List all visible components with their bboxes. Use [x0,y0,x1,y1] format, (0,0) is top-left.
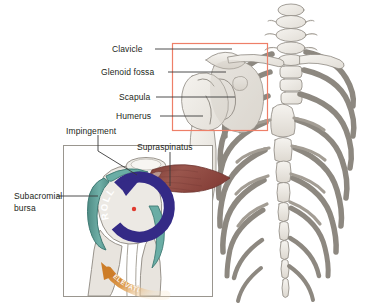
roll-arrow-label: ROLL [98,185,117,221]
roll-arrow-text-layer: ROLL ELEVATION [0,0,382,305]
elevation-arrow-label: ELEVATION [0,0,141,293]
anatomy-figure: Clavicle Glenoid fossa Scapula Humerus I… [0,0,382,305]
